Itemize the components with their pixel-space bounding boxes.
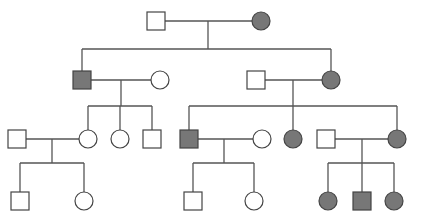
unaffected-female-symbol: [245, 192, 263, 210]
unaffected-male-symbol: [184, 192, 202, 210]
affected-female-symbol: [385, 192, 403, 210]
unaffected-female-symbol: [111, 130, 129, 148]
unaffected-male-symbol: [317, 130, 335, 148]
unaffected-male-symbol: [143, 130, 161, 148]
unaffected-male-symbol: [147, 12, 165, 30]
affected-female-symbol: [252, 12, 270, 30]
unaffected-female-symbol: [151, 71, 169, 89]
affected-male-symbol: [73, 71, 91, 89]
unaffected-female-symbol: [75, 192, 93, 210]
unaffected-female-symbol: [253, 130, 271, 148]
affected-female-symbol: [319, 192, 337, 210]
affected-male-symbol: [180, 130, 198, 148]
affected-female-symbol: [388, 130, 406, 148]
affected-male-symbol: [353, 192, 371, 210]
unaffected-female-symbol: [79, 130, 97, 148]
unaffected-male-symbol: [247, 71, 265, 89]
unaffected-male-symbol: [8, 130, 26, 148]
pedigree-chart: [0, 0, 422, 220]
unaffected-male-symbol: [11, 192, 29, 210]
affected-female-symbol: [322, 71, 340, 89]
affected-female-symbol: [284, 130, 302, 148]
